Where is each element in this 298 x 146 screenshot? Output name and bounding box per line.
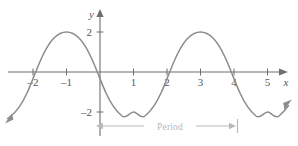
sine-curve-path: [8, 32, 289, 119]
y-tick-label-minus2: –2: [80, 106, 92, 118]
x-tick-label-1: 1: [131, 76, 137, 88]
x-tick-label-5: 5: [265, 76, 271, 88]
x-axis-name-label: x: [283, 76, 289, 88]
y-axis-name-label: y: [88, 8, 94, 20]
curve-right-arrowhead: [283, 100, 292, 110]
y-axis-arrowhead: [96, 9, 103, 17]
period-label: Period: [157, 122, 183, 132]
x-axis-arrowhead: [279, 68, 288, 75]
period-annotation: Period: [96, 119, 238, 133]
sine-period-figure: –2 –1 1 2 3 4 5 2 –2 y x Period: [0, 0, 298, 146]
x-tick-label-3: 3: [198, 76, 204, 88]
x-tick-label-minus2: –2: [27, 76, 39, 88]
y-tick-label-2: 2: [87, 26, 93, 38]
x-axis: [8, 68, 288, 75]
x-tick-label-minus1: –1: [60, 76, 72, 88]
period-right-arrowhead: [229, 123, 236, 129]
sine-curve: [5, 32, 292, 124]
figure-canvas: –2 –1 1 2 3 4 5 2 –2 y x Period: [0, 0, 298, 146]
